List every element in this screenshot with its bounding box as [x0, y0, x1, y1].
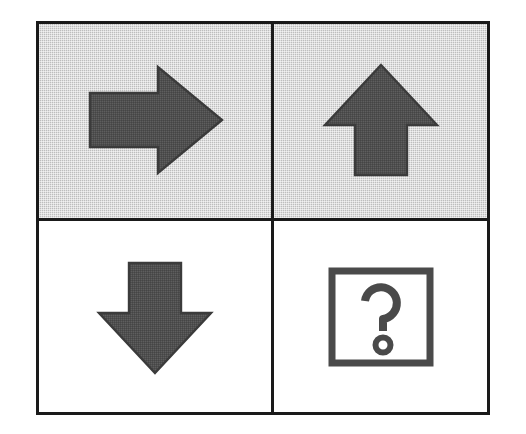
- grid-cell-bottom-left[interactable]: [39, 221, 274, 412]
- grid-cell-top-left[interactable]: [39, 24, 274, 221]
- figure-root: [0, 0, 526, 434]
- arrow-down-icon: [93, 255, 217, 379]
- grid-cell-top-right[interactable]: [274, 24, 487, 221]
- question-mark-hook: [365, 287, 397, 331]
- arrow-up-icon: [319, 59, 443, 183]
- icon-grid: [36, 21, 490, 415]
- arrow-right-icon: [80, 61, 230, 181]
- question-mark-box-icon: [327, 267, 435, 367]
- question-mark-dot: [375, 337, 390, 352]
- grid-cell-bottom-right[interactable]: [274, 221, 487, 412]
